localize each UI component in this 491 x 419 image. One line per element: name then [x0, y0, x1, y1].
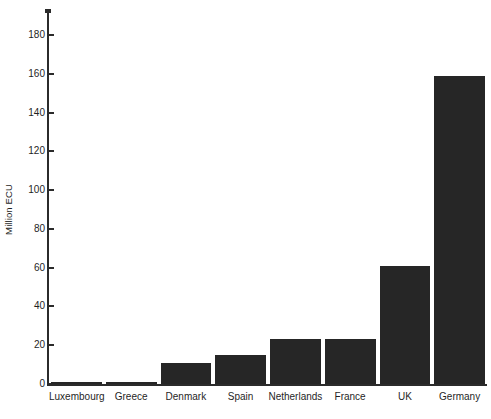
bar: [51, 382, 102, 384]
x-axis-category-label: Netherlands: [268, 391, 323, 403]
x-axis-category-label: France: [323, 391, 378, 403]
x-axis-category-label: UK: [378, 391, 433, 403]
bar: [161, 363, 212, 384]
bar-chart: Million ECU 020406080100120140160180 Lux…: [0, 0, 491, 419]
y-axis-tick-label: 60: [34, 263, 45, 273]
plot-area: [49, 10, 487, 384]
y-axis-tick-label: 100: [28, 185, 45, 195]
y-axis-tick-label: 140: [28, 108, 45, 118]
bar: [270, 339, 321, 384]
y-axis-tick-label: 120: [28, 146, 45, 156]
x-axis-category-label: Germany: [432, 391, 487, 403]
x-axis-line: [47, 384, 487, 386]
bar: [434, 76, 485, 384]
y-axis-tick-label: 40: [34, 301, 45, 311]
x-axis-category-label: Greece: [104, 391, 159, 403]
bar: [106, 382, 157, 384]
y-axis-tick-label: 80: [34, 224, 45, 234]
x-axis-category-label: Denmark: [159, 391, 214, 403]
y-axis-tick-label: 0: [39, 379, 45, 389]
y-axis-tick-label: 20: [34, 340, 45, 350]
y-axis-tick-label: 160: [28, 69, 45, 79]
x-axis-category-label: Luxembourg: [49, 391, 104, 403]
bar: [325, 339, 376, 384]
y-axis-tick-label: 180: [28, 30, 45, 40]
y-axis-title: Million ECU: [0, 0, 16, 419]
x-axis-category-label: Spain: [213, 391, 268, 403]
bar: [380, 266, 431, 384]
bar: [215, 355, 266, 384]
